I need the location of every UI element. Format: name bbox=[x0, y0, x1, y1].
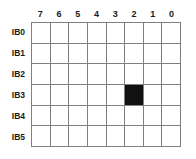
grid-cell bbox=[69, 23, 88, 44]
grid-cell bbox=[106, 64, 125, 85]
grid-cell bbox=[69, 64, 88, 85]
grid-cell bbox=[106, 105, 125, 126]
grid-cell bbox=[50, 23, 69, 44]
grid-cell bbox=[69, 126, 88, 147]
grid-cell bbox=[50, 64, 69, 85]
column-header-3: 3 bbox=[106, 7, 125, 21]
bit-matrix-figure: 7 6 5 4 3 2 1 0 IB0 IB1 IB2 IB3 IB4 IB5 bbox=[0, 0, 196, 159]
grid-row bbox=[32, 64, 181, 85]
grid-cell bbox=[32, 43, 51, 64]
grid-row bbox=[32, 84, 181, 105]
column-header-6: 6 bbox=[50, 7, 69, 21]
row-label-ib4: IB4 bbox=[0, 105, 29, 126]
grid-cell bbox=[143, 64, 162, 85]
grid-cell bbox=[125, 126, 144, 147]
grid-cell bbox=[87, 43, 106, 64]
grid-cell bbox=[125, 43, 144, 64]
grid-cell bbox=[143, 23, 162, 44]
grid-body bbox=[32, 23, 181, 147]
grid-cell bbox=[32, 23, 51, 44]
grid-row bbox=[32, 126, 181, 147]
column-header-0: 0 bbox=[162, 7, 181, 21]
grid-cell bbox=[50, 43, 69, 64]
column-header-1: 1 bbox=[144, 7, 163, 21]
column-header-2: 2 bbox=[125, 7, 144, 21]
grid-cell bbox=[50, 105, 69, 126]
grid-cell bbox=[125, 23, 144, 44]
grid-cell bbox=[50, 84, 69, 105]
bit-matrix-grid bbox=[31, 22, 181, 147]
row-label-ib1: IB1 bbox=[0, 43, 29, 64]
column-header-row: 7 6 5 4 3 2 1 0 bbox=[31, 7, 181, 21]
grid-cell bbox=[87, 84, 106, 105]
grid-cell bbox=[32, 126, 51, 147]
grid-cell bbox=[87, 64, 106, 85]
column-header-7: 7 bbox=[31, 7, 50, 21]
row-label-ib3: IB3 bbox=[0, 84, 29, 105]
grid-cell bbox=[162, 64, 181, 85]
grid-cell bbox=[143, 105, 162, 126]
grid-cell bbox=[106, 23, 125, 44]
grid-cell bbox=[69, 43, 88, 64]
grid-row bbox=[32, 43, 181, 64]
column-header-4: 4 bbox=[87, 7, 106, 21]
row-label-ib5: IB5 bbox=[0, 126, 29, 147]
grid-cell bbox=[50, 126, 69, 147]
grid-cell bbox=[162, 84, 181, 105]
grid-cell bbox=[162, 126, 181, 147]
row-label-ib2: IB2 bbox=[0, 64, 29, 85]
grid-cell bbox=[125, 64, 144, 85]
grid-cell bbox=[143, 43, 162, 64]
row-label-column: IB0 IB1 IB2 IB3 IB4 IB5 bbox=[0, 22, 29, 147]
grid-cell bbox=[143, 84, 162, 105]
row-label-ib0: IB0 bbox=[0, 22, 29, 43]
grid-cell bbox=[69, 84, 88, 105]
grid-cell-filled bbox=[125, 84, 144, 105]
column-header-5: 5 bbox=[69, 7, 88, 21]
grid-cell bbox=[125, 105, 144, 126]
grid-cell bbox=[87, 126, 106, 147]
grid-cell bbox=[106, 84, 125, 105]
grid-cell bbox=[106, 126, 125, 147]
grid-cell bbox=[143, 126, 162, 147]
grid-cell bbox=[32, 84, 51, 105]
grid-cell bbox=[162, 23, 181, 44]
grid-row bbox=[32, 23, 181, 44]
grid-cell bbox=[162, 105, 181, 126]
grid-row bbox=[32, 105, 181, 126]
grid-cell bbox=[87, 23, 106, 44]
grid-cell bbox=[32, 64, 51, 85]
grid-cell bbox=[69, 105, 88, 126]
grid-cell bbox=[162, 43, 181, 64]
grid-cell bbox=[106, 43, 125, 64]
grid-cell bbox=[87, 105, 106, 126]
grid-cell bbox=[32, 105, 51, 126]
